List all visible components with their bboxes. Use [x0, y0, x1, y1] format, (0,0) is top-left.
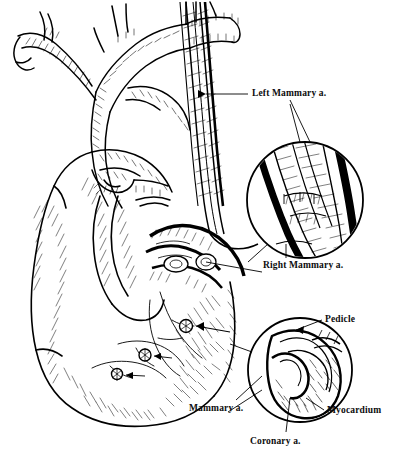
- label-mammary-artery: Mammary a.: [189, 404, 243, 414]
- label-right-mammary-artery: Right Mammary a.: [263, 261, 343, 271]
- vessel-lumen-opening-a: [164, 256, 188, 272]
- label-coronary-artery: Coronary a.: [250, 437, 301, 447]
- label-myocardium: Myocardium: [327, 406, 381, 416]
- anatomical-illustration: [0, 0, 393, 465]
- label-pedicle: Pedicle: [325, 315, 355, 325]
- label-left-mammary-artery: Left Mammary a.: [252, 89, 326, 99]
